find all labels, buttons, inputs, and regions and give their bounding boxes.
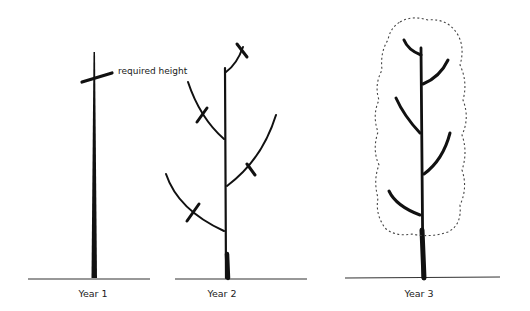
required-height-label: required height bbox=[118, 66, 187, 76]
tree-year1 bbox=[82, 52, 112, 278]
pruning-diagram bbox=[0, 0, 530, 311]
caption-year1: Year 1 bbox=[78, 288, 107, 299]
caption-year3: Year 3 bbox=[404, 288, 433, 299]
tree-year3 bbox=[389, 40, 450, 278]
tree-year2 bbox=[166, 44, 276, 278]
caption-year2: Year 2 bbox=[207, 288, 236, 299]
cut-mark-required-height bbox=[82, 73, 112, 82]
